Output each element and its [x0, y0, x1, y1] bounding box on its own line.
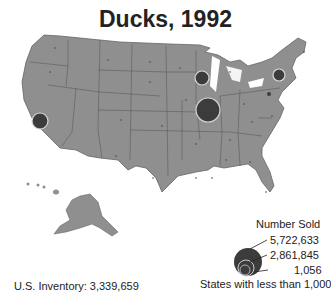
- hawaii-shape: [27, 183, 60, 195]
- contiguous-us-shape: [22, 35, 306, 192]
- bubble-indiana: [196, 98, 220, 122]
- legend-note: States with less than 1,000: [200, 278, 331, 290]
- legend-value-medium: 2,861,845: [270, 249, 319, 261]
- inventory-text: U.S. Inventory: 3,339,659: [14, 280, 139, 292]
- alaska-shape: [54, 194, 118, 236]
- bubble-wisconsin: [195, 71, 209, 85]
- legend-value-small: 1,056: [294, 264, 322, 276]
- bubble-california: [32, 113, 48, 129]
- bubble-pennsylvania: [267, 92, 271, 96]
- legend-value-large: 5,722,633: [270, 234, 319, 246]
- bubble-new-york: [273, 69, 285, 81]
- legend-symbols: [234, 240, 268, 276]
- legend-title: Number Sold: [256, 218, 320, 230]
